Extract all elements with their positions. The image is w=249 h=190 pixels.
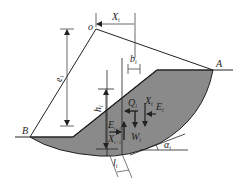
x-dim-label: Xi [111, 11, 120, 23]
l-dim-ext-right [122, 154, 132, 178]
point-B-label: B [22, 125, 28, 136]
center-point-label: o [88, 21, 93, 32]
l-dim-label: li [113, 157, 118, 169]
alpha-arc [156, 145, 158, 150]
h-dim-label: hi [92, 105, 104, 112]
radius-line-to-B [30, 29, 96, 137]
b-dim-label: bi [130, 53, 137, 65]
alpha-label: αi [164, 139, 171, 151]
radius-line-to-A [96, 29, 213, 70]
point-A-label: A [215, 58, 223, 69]
l-dim-line [117, 170, 129, 172]
e-dim-label: ei [53, 76, 65, 82]
slope-slice-diagram: Xi bi ei hi Qi Xi Ei Wi Ei+1 Xi+1 αi li … [0, 0, 249, 190]
